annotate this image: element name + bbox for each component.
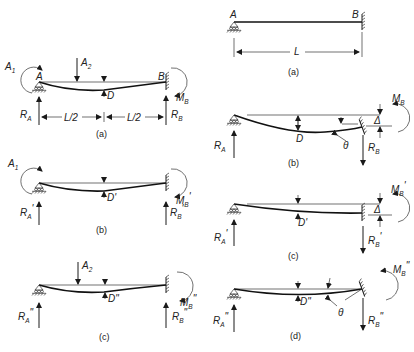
label-D: D [107, 90, 114, 101]
right-diagram-c: D' Δ MB' RB' RA' (c) [214, 180, 410, 261]
right-diagram-b: D θ RB Δ MB RA (b) [214, 93, 410, 168]
label-B: B [158, 71, 165, 82]
caption-right-b: (b) [288, 158, 299, 168]
fixed-wall-icon [362, 203, 365, 221]
svg-text:RB: RB [171, 109, 183, 122]
svg-text:D': D' [298, 217, 308, 228]
svg-text:Δ: Δ [373, 115, 381, 126]
fixed-wall-icon [166, 173, 169, 191]
svg-text:MB": MB" [393, 260, 410, 277]
caption-right-c: (c) [288, 251, 299, 261]
svg-text:RA: RA [20, 109, 32, 122]
svg-text:A: A [229, 9, 237, 20]
svg-text:RA': RA' [214, 228, 229, 245]
svg-text:RA": RA" [213, 311, 229, 328]
caption-left-c: (c) [99, 332, 110, 342]
fixed-wall-icon [166, 275, 169, 293]
svg-text:MB": MB" [180, 293, 197, 310]
svg-text:RB': RB' [368, 231, 383, 248]
deflected-beam [39, 82, 166, 90]
svg-text:Δ: Δ [373, 204, 381, 215]
right-diagram-d: D" θ RB" MB" RA" (d) [213, 260, 410, 341]
svg-text:A1: A1 [4, 61, 16, 74]
left-diagram-b: A1 D' MB' RA' RB' (b) [7, 158, 192, 235]
caption-left-b: (b) [96, 225, 107, 235]
svg-text:L: L [294, 46, 300, 57]
left-diagram-c: A2 D" MB" RA" RB" (c) [18, 260, 197, 342]
caption-right-a: (a) [288, 67, 299, 77]
fixed-wall-icon [166, 72, 169, 90]
svg-text:RB": RB" [368, 311, 384, 328]
caption-left-a: (a) [96, 129, 107, 139]
left-diagram-a: A1 A A2 D B MB RA RB L/2 L/2 (a) [4, 57, 189, 139]
beam-diagram: A1 A A2 D B MB RA RB L/2 L/2 (a) A1 [0, 0, 414, 352]
svg-text:A2: A2 [81, 260, 93, 273]
svg-text:D": D" [108, 293, 119, 304]
svg-text:RB: RB [368, 142, 380, 155]
svg-text:D": D" [300, 296, 311, 307]
label-A: A [35, 71, 43, 82]
svg-text:RA: RA [214, 140, 226, 153]
svg-text:RA': RA' [20, 203, 35, 220]
svg-text:B: B [352, 9, 359, 20]
svg-text:RB": RB" [172, 307, 188, 324]
svg-text:L/2: L/2 [127, 112, 141, 123]
right-diagram-a: A B L (a) [227, 9, 365, 77]
svg-text:MB': MB' [391, 180, 407, 197]
svg-text:RA": RA" [18, 307, 34, 324]
svg-text:θ: θ [343, 140, 349, 151]
rotated-wall-icon [359, 117, 368, 135]
svg-text:A1: A1 [7, 158, 19, 171]
svg-text:θ: θ [338, 307, 344, 318]
svg-text:MB: MB [176, 92, 189, 105]
svg-text:D': D' [107, 192, 117, 203]
caption-right-d: (d) [290, 331, 301, 341]
svg-text:D: D [296, 133, 303, 144]
svg-text:A2: A2 [80, 57, 92, 70]
roller-support-icon [227, 204, 241, 215]
rotated-wall-icon [359, 279, 368, 297]
fixed-wall-icon [362, 12, 365, 30]
svg-text:L/2: L/2 [64, 112, 78, 123]
svg-text:MB': MB' [176, 191, 192, 208]
roller-support-icon [227, 22, 241, 33]
